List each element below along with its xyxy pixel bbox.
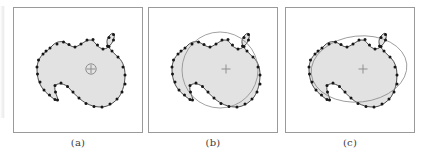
centroid-marker-circled-plus-a (86, 64, 96, 74)
panel-a-diagram (13, 7, 143, 133)
panel-a: (a) (13, 7, 143, 133)
panel-group: (a) (0, 0, 421, 159)
panel-b-diagram (148, 7, 278, 133)
panel-c: (c) (285, 7, 415, 133)
shape-b-group (171, 32, 262, 109)
panel-c-label: (c) (285, 137, 415, 148)
figure-root: (a) (0, 0, 421, 159)
shape-a-group (36, 33, 127, 109)
panel-a-label: (a) (13, 137, 143, 148)
shape-c-group (308, 31, 411, 108)
panel-b-label: (b) (148, 137, 278, 148)
panel-b: (b) (148, 7, 278, 133)
panel-c-diagram (285, 7, 415, 133)
